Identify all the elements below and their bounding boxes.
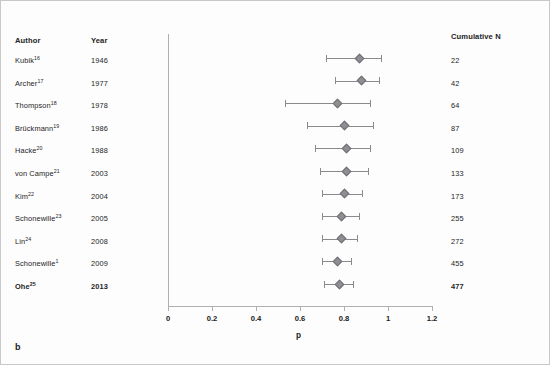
confidence-interval-cap	[368, 168, 369, 175]
confidence-interval-cap	[322, 213, 323, 220]
x-axis-tick	[256, 306, 257, 311]
confidence-interval-cap	[353, 281, 354, 288]
forest-row	[1, 165, 550, 177]
row-author-label: Lin24	[15, 237, 31, 246]
forest-row	[1, 52, 550, 64]
point-estimate-marker	[335, 279, 345, 289]
x-axis-tick	[344, 306, 345, 311]
confidence-interval-cap	[370, 145, 371, 152]
x-axis-tick	[168, 306, 169, 311]
x-axis-tick-label: 0.8	[329, 314, 359, 323]
x-axis-tick	[388, 306, 389, 311]
row-author-label: Archer17	[15, 79, 43, 88]
row-year-label: 1946	[91, 56, 108, 65]
forest-row	[1, 255, 550, 267]
x-axis-tick-label: 0	[153, 314, 183, 323]
confidence-interval-cap	[315, 145, 316, 152]
confidence-interval-cap	[322, 235, 323, 242]
confidence-interval-cap	[379, 77, 380, 84]
point-estimate-marker	[332, 256, 342, 266]
x-axis-tick-label: 1.2	[417, 314, 447, 323]
row-cumulative-n-label: 87	[451, 124, 459, 133]
point-estimate-marker	[339, 121, 349, 131]
row-author-label: Brückmann19	[15, 124, 59, 133]
row-year-label: 2004	[91, 192, 108, 201]
x-axis-tick-label: 0.2	[197, 314, 227, 323]
row-author-label: von Campe21	[15, 169, 60, 178]
forest-row	[1, 210, 550, 222]
row-cumulative-n-label: 64	[451, 101, 459, 110]
row-cumulative-n-label: 455	[451, 259, 464, 268]
row-author-label: Ohe25	[15, 282, 36, 291]
confidence-interval-cap	[373, 122, 374, 129]
row-year-label: 1988	[91, 146, 108, 155]
confidence-interval-cap	[351, 258, 352, 265]
forest-row	[1, 97, 550, 109]
row-author-label: Kim22	[15, 192, 34, 201]
x-axis-tick	[432, 306, 433, 311]
confidence-interval-line	[285, 103, 371, 104]
forest-row	[1, 188, 550, 200]
row-cumulative-n-label: 42	[451, 79, 459, 88]
row-cumulative-n-label: 255	[451, 214, 464, 223]
row-author-label: Schonewille23	[15, 214, 62, 223]
point-estimate-marker	[354, 53, 364, 63]
confidence-interval-cap	[335, 77, 336, 84]
panel-label: b	[15, 342, 21, 352]
point-estimate-marker	[337, 211, 347, 221]
point-estimate-marker	[357, 76, 367, 86]
point-estimate-marker	[337, 234, 347, 244]
point-estimate-marker	[339, 189, 349, 199]
confidence-interval-cap	[322, 190, 323, 197]
plot-area: 00.20.40.60.811.2p	[1, 1, 550, 365]
x-axis-tick-label: 0.4	[241, 314, 271, 323]
forest-row	[1, 120, 550, 132]
forest-row	[1, 278, 550, 290]
confidence-interval-cap	[326, 55, 327, 62]
row-cumulative-n-label: 22	[451, 56, 459, 65]
row-year-label: 1986	[91, 124, 108, 133]
row-year-label: 2008	[91, 237, 108, 246]
row-year-label: 2005	[91, 214, 108, 223]
row-cumulative-n-label: 272	[451, 237, 464, 246]
forest-row	[1, 75, 550, 87]
point-estimate-marker	[332, 98, 342, 108]
x-axis-tick-label: 0.6	[285, 314, 315, 323]
confidence-interval-cap	[322, 258, 323, 265]
x-axis-tick-label: 1	[373, 314, 403, 323]
row-cumulative-n-label: 477	[451, 282, 464, 291]
row-author-label: Schonewille1	[15, 259, 59, 268]
row-year-label: 1978	[91, 101, 108, 110]
x-axis-tick	[212, 306, 213, 311]
confidence-interval-cap	[320, 168, 321, 175]
confidence-interval-cap	[359, 213, 360, 220]
row-author-label: Thompson18	[15, 101, 57, 110]
forest-row	[1, 142, 550, 154]
x-axis-tick	[300, 306, 301, 311]
x-axis-label: p	[296, 331, 301, 340]
row-author-label: Kubik16	[15, 56, 40, 65]
forest-plot-figure: Author Year Cumulative N 00.20.40.60.811…	[0, 0, 550, 365]
confidence-interval-cap	[362, 190, 363, 197]
row-year-label: 2013	[91, 282, 108, 291]
row-cumulative-n-label: 133	[451, 169, 464, 178]
row-year-label: 2003	[91, 169, 108, 178]
confidence-interval-cap	[381, 55, 382, 62]
point-estimate-marker	[341, 166, 351, 176]
row-cumulative-n-label: 109	[451, 146, 464, 155]
point-estimate-marker	[341, 143, 351, 153]
row-year-label: 1977	[91, 79, 108, 88]
confidence-interval-cap	[285, 100, 286, 107]
confidence-interval-cap	[370, 100, 371, 107]
confidence-interval-cap	[357, 235, 358, 242]
row-year-label: 2009	[91, 259, 108, 268]
confidence-interval-cap	[307, 122, 308, 129]
forest-row	[1, 233, 550, 245]
confidence-interval-cap	[324, 281, 325, 288]
row-author-label: Hacke20	[15, 146, 43, 155]
row-cumulative-n-label: 173	[451, 192, 464, 201]
